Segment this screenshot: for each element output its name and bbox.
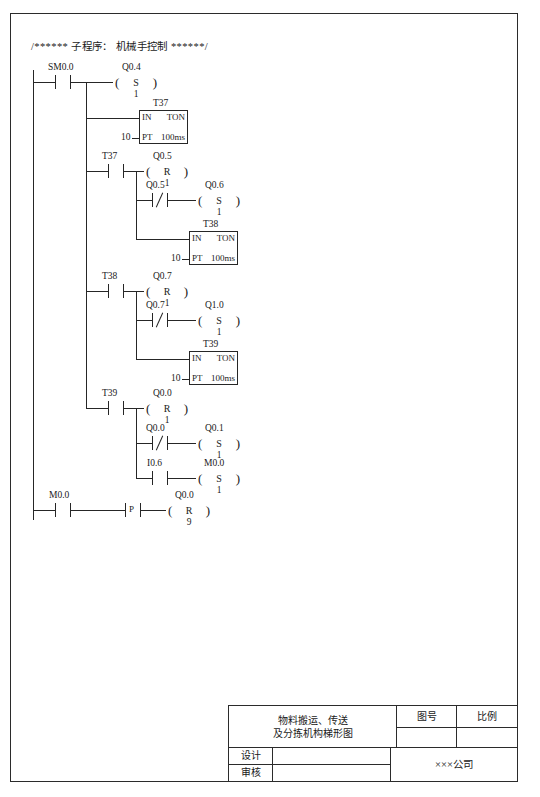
coil-q0-1-op: S [216, 436, 222, 451]
contact-t38-label: T38 [102, 271, 117, 282]
rung2-timer-wire [136, 239, 189, 240]
coil-q0-7-reset: (R) [144, 284, 190, 299]
timer-t37-kind: TON [167, 111, 185, 123]
drawing-page: /****** 子程序： 机械手控制 ******/ SM0.0 (S) Q0.… [0, 0, 540, 797]
rung4-branch-a-wire-right [168, 443, 196, 444]
contact-t39 [108, 401, 124, 415]
timer-t39-timebase: 100ms [211, 372, 235, 384]
coil-q0-0-label: Q0.0 [153, 388, 172, 399]
timer-t37-preset: 10 [121, 132, 131, 143]
coil-q0-6-label: Q0.6 [205, 180, 224, 191]
coil-m0-0-op: S [216, 471, 222, 486]
timer-t37-timebase: 100ms [161, 131, 185, 143]
coil-q1-0-label: Q1.0 [205, 300, 224, 311]
rung4-wire-left [86, 408, 108, 409]
timer-t37-pt: PT [142, 131, 153, 143]
drawing-title-line1: 物料搬运、传送 [278, 714, 348, 727]
company-name: ×××公司 [391, 747, 517, 781]
drawing-no-label: 图号 [397, 706, 456, 727]
rung3-branch-vertical [136, 291, 137, 359]
rung2-rail-drop [86, 118, 87, 171]
coil-q0-4-label: Q0.4 [122, 62, 141, 73]
rung2-branch-vertical [136, 171, 137, 239]
timer-t39-block: IN TON PT 100ms [189, 351, 238, 385]
rung4-wire-mid [124, 408, 144, 409]
timer-t38-pt: PT [192, 252, 203, 264]
timer-t38-kind: TON [217, 232, 235, 244]
rung1-timer-wire [86, 118, 139, 119]
contact-q0-7-nc-label: Q0.7 [146, 300, 165, 311]
coil-q0-6-op: S [216, 193, 222, 208]
designer-value[interactable] [273, 747, 390, 764]
rung5-wire-mid-a [71, 510, 125, 511]
timer-t38-timebase: 100ms [211, 252, 235, 264]
coil-m0-0-set: (S) [196, 471, 242, 486]
contact-t37-label: T37 [102, 151, 117, 162]
timer-t39-preset: 10 [171, 373, 181, 384]
rung3-rail-drop [86, 171, 87, 291]
rung1-wire-left [33, 82, 55, 83]
coil-q1-0-op: S [216, 313, 222, 328]
drawing-title-cell: 物料搬运、传送 及分拣机构梯形图 [229, 706, 396, 747]
rung3-wire-mid [124, 291, 144, 292]
program-comment: /****** 子程序： 机械手控制 ******/ [31, 38, 208, 53]
title-block: 物料搬运、传送 及分拣机构梯形图 图号 比例 设计 审核 ×××公司 [228, 705, 518, 782]
contact-q0-5-nc [152, 193, 168, 207]
timer-t38-preset: 10 [171, 253, 181, 264]
rung3-branch-wire-a [136, 320, 152, 321]
rung3-branch-wire-b [168, 320, 196, 321]
contact-q0-5-nc-label: Q0.5 [146, 180, 165, 191]
reviewer-label: 审核 [229, 764, 272, 781]
coil-q0-4-set: (S) [113, 75, 159, 90]
contact-q0-7-nc [152, 313, 168, 327]
rung4-rail-drop [86, 291, 87, 408]
coil-q0-0-reset-9-value: 9 [166, 517, 212, 528]
coil-q0-0-reset-9-label: Q0.0 [175, 490, 194, 501]
rung3-wire-left [86, 291, 108, 292]
timer-t37-in: IN [142, 111, 152, 123]
rung2-branch-wire-a [136, 200, 152, 201]
rung4-branch-b-wire-right [168, 478, 196, 479]
rung2-branch-wire-b [168, 200, 196, 201]
rung2-wire-mid [124, 171, 144, 172]
coil-q0-5-label: Q0.5 [153, 151, 172, 162]
coil-m0-0-value: 1 [196, 485, 242, 496]
timer-t38-pt-wire [182, 259, 189, 260]
coil-q0-0-reset-9: (R) [166, 503, 212, 518]
rung3-timer-wire [136, 359, 189, 360]
contact-t39-label: T39 [102, 388, 117, 399]
positive-edge-glyph: P [129, 502, 134, 516]
rung5-wire-mid-b [141, 510, 166, 511]
contact-m0-0-label: M0.0 [49, 490, 69, 501]
coil-q0-6-set: (S) [196, 193, 242, 208]
timer-t39-pt-wire [182, 379, 189, 380]
rung4-branch-a-wire-left [136, 443, 152, 444]
coil-q0-0-reset: (R) [144, 401, 190, 416]
timer-t38-in: IN [192, 232, 202, 244]
designer-label: 设计 [229, 747, 272, 764]
coil-q0-0-reset-9-op: R [186, 503, 193, 518]
rung2-wire-left [86, 171, 108, 172]
coil-q1-0-set: (S) [196, 313, 242, 328]
contact-sm0-0-label: SM0.0 [48, 62, 74, 73]
reviewer-value[interactable] [273, 764, 390, 781]
contact-q0-0-nc [152, 436, 168, 450]
contact-i0-6-label: I0.6 [147, 458, 162, 469]
coil-q0-5-op: R [164, 164, 171, 179]
left-power-rail [33, 70, 34, 520]
timer-t39-pt: PT [192, 372, 203, 384]
timer-t37-block: IN TON PT 100ms [139, 110, 188, 144]
scale-value[interactable] [457, 728, 517, 747]
coil-q0-7-label: Q0.7 [153, 271, 172, 282]
coil-q0-6-value: 1 [196, 207, 242, 218]
timer-t38-block: IN TON PT 100ms [189, 231, 238, 265]
contact-q0-0-nc-label: Q0.0 [146, 423, 165, 434]
timer-t38-name: T38 [203, 219, 218, 230]
coil-q0-5-reset: (R) [144, 164, 190, 179]
timer-t37-name: T37 [153, 98, 168, 109]
contact-positive-edge: P [125, 503, 141, 517]
rung1-wire-mid [71, 82, 113, 83]
drawing-no-value[interactable] [397, 728, 456, 747]
coil-q1-0-value: 1 [196, 327, 242, 338]
timer-t39-in: IN [192, 352, 202, 364]
